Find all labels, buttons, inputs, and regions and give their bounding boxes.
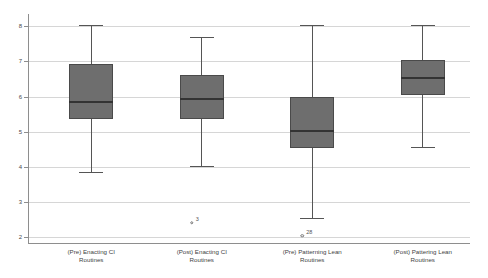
category-label: (Pre) Enacting CIRoutines [36, 248, 147, 264]
category-label: (Pre) Patterning LeanRoutines [257, 248, 368, 264]
outlier-point[interactable] [190, 221, 194, 225]
median-line [401, 77, 445, 79]
y-tick-mark [24, 132, 28, 133]
y-tick-mark [24, 202, 28, 203]
upper-whisker-line [422, 25, 423, 60]
y-tick-label: 2 [19, 234, 22, 240]
category-label-line1: (Post) Enacting CI [147, 248, 258, 256]
category-label-line1: (Pre) Patterning Lean [257, 248, 368, 256]
y-tick-label: 4 [19, 164, 22, 170]
y-axis-line [28, 14, 29, 244]
y-tick-mark [24, 237, 28, 238]
y-tick-label: 7 [19, 58, 22, 64]
outlier-label: 3 [196, 216, 199, 222]
category-label: (Post) Pattering LeanRoutines [368, 248, 479, 264]
upper-whisker-cap [300, 25, 324, 26]
category-label-line2: Routines [368, 256, 479, 264]
median-line [180, 98, 224, 100]
category-label: (Post) Enacting CIRoutines [147, 248, 258, 264]
lower-whisker-line [91, 119, 92, 172]
y-tick-mark [24, 97, 28, 98]
box-rect[interactable] [69, 64, 113, 119]
box-plot-group[interactable] [368, 14, 479, 244]
median-line [69, 101, 113, 103]
box-rect[interactable] [290, 97, 334, 149]
outlier-label: 28 [306, 229, 312, 235]
category-label-line1: (Pre) Enacting CI [36, 248, 147, 256]
median-line [290, 130, 334, 132]
y-tick-label: 5 [19, 129, 22, 135]
category-label-line1: (Post) Pattering Lean [368, 248, 479, 256]
category-label-line2: Routines [147, 256, 258, 264]
outlier-point[interactable] [301, 234, 305, 238]
lower-whisker-line [422, 95, 423, 148]
upper-whisker-line [201, 37, 202, 76]
y-tick-mark [24, 167, 28, 168]
upper-whisker-cap [411, 25, 435, 26]
category-label-line2: Routines [36, 256, 147, 264]
box-plot-group[interactable] [36, 14, 147, 244]
upper-whisker-line [91, 25, 92, 64]
upper-whisker-cap [190, 37, 214, 38]
box-plot-chart: 2345678 328 (Pre) Enacting CIRoutines(Po… [0, 0, 488, 278]
y-tick-mark [24, 26, 28, 27]
upper-whisker-cap [79, 25, 103, 26]
plot-area: 2345678 328 [28, 14, 470, 244]
y-tick-label: 3 [19, 199, 22, 205]
box-plot-group[interactable]: 3 [147, 14, 258, 244]
y-tick-mark [24, 61, 28, 62]
lower-whisker-cap [411, 147, 435, 148]
category-label-line2: Routines [257, 256, 368, 264]
y-tick-label: 6 [19, 94, 22, 100]
upper-whisker-line [312, 25, 313, 97]
lower-whisker-cap [79, 172, 103, 173]
lower-whisker-line [312, 148, 313, 218]
box-plot-group[interactable]: 28 [257, 14, 368, 244]
lower-whisker-line [201, 119, 202, 166]
y-tick-label: 8 [19, 23, 22, 29]
lower-whisker-cap [300, 218, 324, 219]
lower-whisker-cap [190, 166, 214, 167]
